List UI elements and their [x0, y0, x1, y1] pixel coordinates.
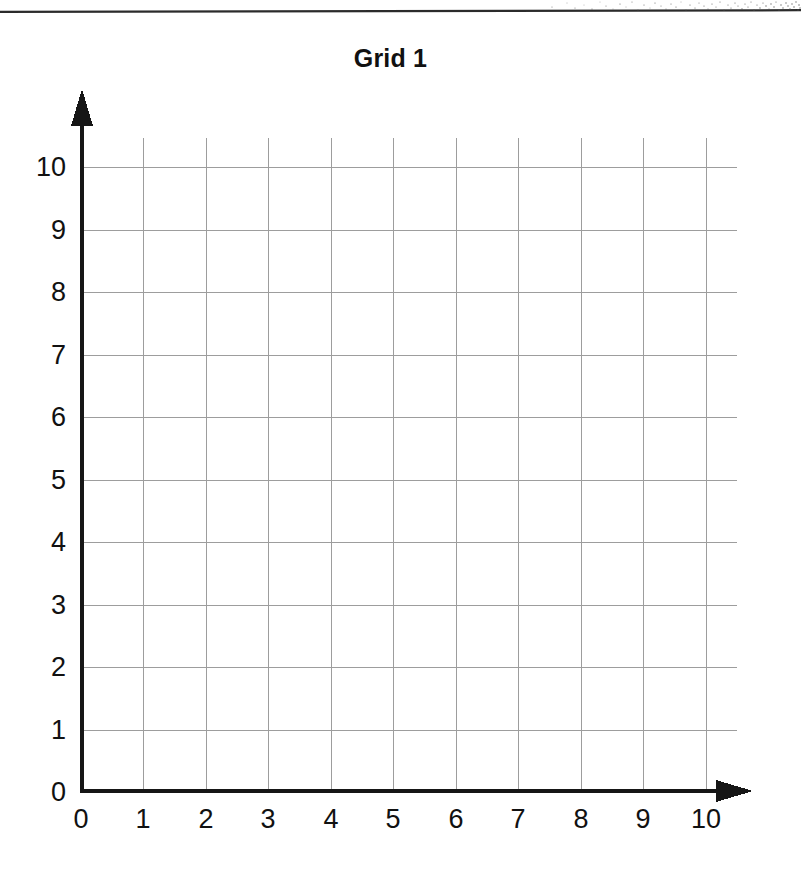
- y-axis-arrowhead: [71, 89, 93, 126]
- coordinate-grid: [0, 0, 801, 873]
- x-axis-arrowhead: [716, 780, 753, 802]
- worksheet-page: Grid 1: [0, 0, 801, 873]
- axis-lines: [80, 122, 724, 792]
- grid-lines: [81, 138, 737, 792]
